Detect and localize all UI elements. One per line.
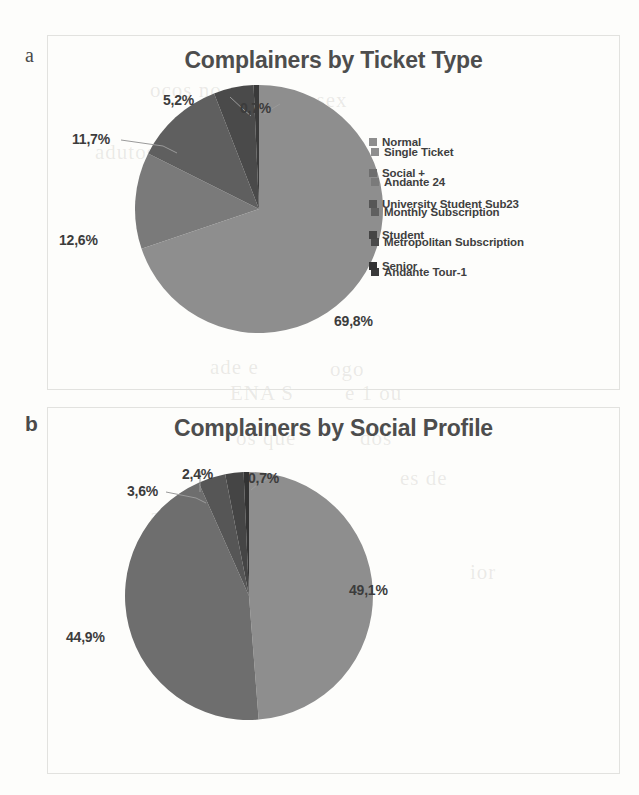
pie-label-a-2: 11,7%: [72, 131, 110, 147]
legend-item-label: Senior: [382, 260, 417, 272]
leader-lines-social-profile: [48, 408, 619, 773]
leader-lines-ticket-type: [48, 36, 619, 389]
legend-item-label: Normal: [382, 136, 421, 148]
pie-label-b-1: 0,7%: [248, 470, 279, 486]
pie-label-b-0: 2,4%: [182, 466, 213, 482]
legend-item-normal[interactable]: Normal: [369, 126, 519, 157]
legend-item-label: University Student Sub23: [382, 198, 519, 210]
legend-swatch-icon: [369, 169, 377, 177]
pie-label-a-4: 69,8%: [334, 313, 373, 329]
panel-label-a: a: [25, 44, 34, 67]
legend-item-label: Student: [382, 229, 424, 241]
legend-swatch-icon: [369, 138, 377, 146]
legend-item-label: Social +: [382, 167, 425, 179]
leader-line-3-6: [166, 492, 206, 503]
pie-label-b-4: 44,9%: [66, 629, 105, 645]
pie-label-a-0: 5,2%: [163, 92, 194, 108]
chart-panel-ticket-type: Complainers by Ticket Type: [47, 35, 620, 390]
pie-label-b-3: 49,1%: [349, 582, 388, 598]
pie-label-b-2: 3,6%: [127, 483, 158, 499]
panel-label-b: b: [25, 412, 38, 436]
pie-label-a-3: 12,6%: [59, 232, 98, 248]
legend-swatch-icon: [369, 231, 377, 239]
leader-line-11-7: [121, 140, 177, 153]
legend-item-student[interactable]: Student: [369, 219, 519, 250]
pie-label-a-1: 0,7%: [240, 100, 271, 116]
legend-item-university-student-sub23[interactable]: University Student Sub23: [369, 188, 519, 219]
chart-panel-social-profile: Complainers by Social Profile: [47, 407, 620, 774]
legend-item-senior[interactable]: Senior: [369, 250, 519, 281]
legend-item-social-[interactable]: Social +: [369, 157, 519, 188]
legend-social-profile: NormalSocial +University Student Sub23St…: [369, 126, 519, 281]
legend-swatch-icon: [369, 262, 377, 270]
legend-swatch-icon: [369, 200, 377, 208]
